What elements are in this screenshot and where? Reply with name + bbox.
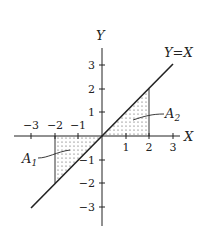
x-tick-label: 2 (146, 141, 153, 154)
region-a2-label: A2 (164, 106, 180, 123)
x-tick-label: −3 (23, 119, 39, 132)
y-axis-label: Y (96, 28, 106, 43)
x-tick-label: −2 (47, 119, 63, 132)
region-a1-label: A1 (21, 151, 37, 168)
y-tick-label: 1 (88, 106, 95, 119)
x-tick-label: 1 (123, 141, 130, 154)
y-tick-label: −2 (79, 177, 95, 190)
line-label: Y=X (164, 45, 193, 60)
x-axis-label: X (183, 129, 194, 144)
y-tick-label: −3 (79, 201, 95, 214)
x-tick-label: −1 (70, 119, 86, 132)
x-tick-label: 3 (170, 141, 177, 154)
y-tick-label: 2 (88, 83, 95, 96)
y-tick-label: 3 (88, 59, 95, 72)
diagram: −3 −2 −1 1 2 3 3 2 1 −1 −2 −3 X Y Y=X A1… (0, 0, 210, 237)
